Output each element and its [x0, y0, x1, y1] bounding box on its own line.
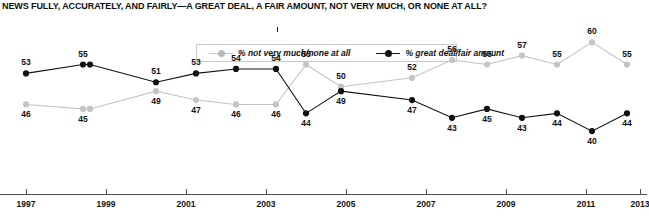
data-point-label: 44 [622, 118, 631, 128]
data-point-marker[interactable] [273, 101, 279, 107]
data-point-label: 43 [447, 123, 456, 133]
x-axis-label: 2001 [177, 199, 196, 209]
data-point-label: 55 [482, 49, 491, 59]
x-axis-tick [26, 189, 27, 195]
x-axis-label: 2003 [257, 199, 276, 209]
x-axis-label: 1997 [17, 199, 36, 209]
x-axis-label: 1999 [97, 199, 116, 209]
data-point-label: 47 [191, 105, 200, 115]
legend-swatch-black-icon [376, 49, 400, 58]
x-axis-tick [266, 189, 267, 195]
x-axis-tick [586, 189, 587, 195]
data-point-marker[interactable] [484, 61, 490, 67]
data-point-marker[interactable] [589, 39, 595, 45]
x-axis-line [0, 194, 647, 195]
data-point-label: 44 [301, 118, 310, 128]
x-axis-label: 2013 [631, 199, 649, 209]
data-point-label: 56 [447, 44, 456, 54]
data-point-marker[interactable] [87, 106, 93, 112]
data-point-label: 49 [336, 96, 345, 106]
data-point-label: 45 [482, 114, 491, 124]
legend-swatch-gray-icon [209, 49, 233, 58]
data-point-label: 47 [407, 105, 416, 115]
data-point-marker[interactable] [193, 97, 199, 103]
x-axis-label: 2007 [417, 199, 436, 209]
x-axis-tick [186, 189, 187, 195]
x-axis-label: 2011 [577, 199, 595, 209]
data-point-marker[interactable] [519, 53, 525, 59]
data-point-marker[interactable] [80, 61, 86, 67]
chart-title: NEWS FULLY, ACCURATELY, AND FAIRLY—A GRE… [2, 1, 642, 12]
data-point-label: 46 [21, 109, 30, 119]
data-point-label: 55 [301, 49, 310, 59]
data-point-label: 60 [587, 26, 596, 36]
data-point-label: 54 [231, 53, 240, 63]
legend-label-not-very-much: % not very much/none at all [238, 48, 350, 58]
data-point-marker[interactable] [233, 66, 239, 72]
data-point-label: 53 [191, 57, 200, 67]
data-point-label: 43 [517, 123, 526, 133]
x-axis-label: 2009 [497, 199, 516, 209]
data-point-marker[interactable] [80, 106, 86, 112]
data-point-marker[interactable] [193, 70, 199, 76]
stray-tick-mark [277, 27, 278, 32]
data-point-label: 40 [587, 136, 596, 146]
data-point-label: 52 [407, 62, 416, 72]
data-point-marker[interactable] [303, 110, 309, 116]
data-point-marker[interactable] [303, 61, 309, 67]
data-point-marker[interactable] [233, 101, 239, 107]
x-axis-label: 2005 [337, 199, 356, 209]
data-point-marker[interactable] [449, 57, 455, 63]
data-point-marker[interactable] [449, 115, 455, 121]
data-point-marker[interactable] [519, 115, 525, 121]
data-point-marker[interactable] [624, 61, 630, 67]
x-axis-tick [506, 189, 507, 195]
series-line-1 [26, 64, 627, 131]
data-point-label: 45 [78, 114, 87, 124]
data-point-marker[interactable] [273, 66, 279, 72]
data-point-marker[interactable] [554, 61, 560, 67]
data-point-marker[interactable] [153, 88, 159, 94]
plot-area: 4645494746465550525655575560555355515354… [0, 66, 647, 190]
data-point-label: 51 [151, 66, 160, 76]
data-point-marker[interactable] [624, 110, 630, 116]
series-lines [0, 66, 647, 190]
data-point-label: 54 [271, 53, 280, 63]
data-point-marker[interactable] [23, 101, 29, 107]
data-point-label: 50 [336, 71, 345, 81]
data-point-label: 46 [231, 109, 240, 119]
x-axis-tick [346, 189, 347, 195]
data-point-label: 55 [78, 49, 87, 59]
data-point-label: 57 [517, 40, 526, 50]
data-point-marker[interactable] [589, 128, 595, 134]
x-axis-tick [640, 189, 641, 195]
data-point-marker[interactable] [23, 70, 29, 76]
data-point-label: 53 [21, 57, 30, 67]
data-point-marker[interactable] [484, 106, 490, 112]
data-point-marker[interactable] [338, 88, 344, 94]
data-point-marker[interactable] [409, 75, 415, 81]
x-axis-tick [106, 189, 107, 195]
x-axis-tick [426, 189, 427, 195]
data-point-marker[interactable] [153, 79, 159, 85]
data-point-label: 55 [552, 49, 561, 59]
data-point-marker[interactable] [87, 61, 93, 67]
data-point-label: 46 [271, 109, 280, 119]
data-point-label: 49 [151, 96, 160, 106]
data-point-label: 44 [552, 118, 561, 128]
data-point-marker[interactable] [554, 110, 560, 116]
data-point-label: 55 [622, 49, 631, 59]
data-point-marker[interactable] [409, 97, 415, 103]
